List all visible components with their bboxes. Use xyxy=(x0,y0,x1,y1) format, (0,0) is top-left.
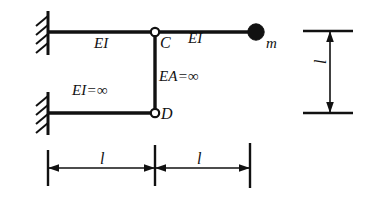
top-beam-right-label: EI xyxy=(188,31,203,46)
hinge-d-icon xyxy=(151,109,159,117)
horizontal-dimension-group xyxy=(48,143,250,188)
hinge-d-label: D xyxy=(161,106,173,122)
bottom-beam-label: EI=∞ xyxy=(72,83,108,98)
vertical-dimension-label: l xyxy=(313,59,329,64)
diagram-canvas xyxy=(0,0,369,219)
top-beam-left-label: EI xyxy=(94,36,109,51)
bottom-fixed-support xyxy=(36,92,48,135)
lumped-mass-icon xyxy=(248,24,264,40)
horizontal-dimension-left-label: l xyxy=(100,151,105,167)
mass-label: m xyxy=(266,36,277,51)
top-fixed-support xyxy=(36,11,48,55)
vertical-dimension-group xyxy=(303,31,353,113)
vertical-link-label: EA=∞ xyxy=(159,69,199,84)
structural-diagram: EI EI C D m EA=∞ EI=∞ l l l xyxy=(0,0,369,219)
hinge-c-icon xyxy=(151,28,159,36)
horizontal-dimension-right-label: l xyxy=(197,151,202,167)
hinge-c-label: C xyxy=(160,35,171,51)
